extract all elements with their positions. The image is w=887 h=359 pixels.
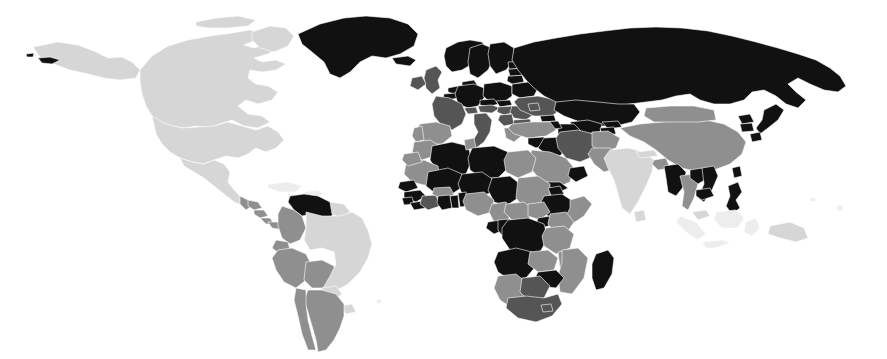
country-moldova	[528, 103, 540, 111]
country-mongolia	[644, 106, 716, 122]
country-aleutian-tip	[26, 53, 34, 57]
country-georgia	[540, 115, 556, 122]
country-tasmania	[774, 316, 788, 326]
world-choropleth-map	[0, 0, 887, 359]
country-south-korea	[740, 123, 754, 132]
country-lesotho	[541, 304, 553, 312]
island-speck-pacific-a	[836, 205, 843, 211]
country-japan-kyushu	[750, 132, 762, 142]
country-poland	[483, 82, 512, 102]
country-sri-lanka	[634, 210, 646, 222]
country-taiwan	[732, 166, 742, 178]
country-lithuania	[507, 75, 524, 84]
island-speck-pacific-b	[810, 197, 816, 202]
island-speck-atlantic-a	[376, 299, 382, 304]
map-canvas	[0, 0, 887, 359]
